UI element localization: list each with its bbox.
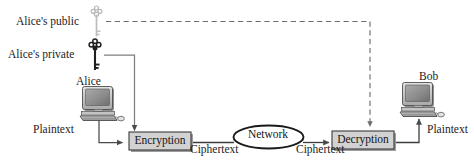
diagram-canvas: Alice's public Alice's private Alice Bob… xyxy=(0,0,474,164)
label-decryption: Decryption xyxy=(331,134,395,146)
edge-public-key-to-decryption xyxy=(106,22,370,127)
label-ciphertext-left: Ciphertext xyxy=(190,144,239,156)
edge-alice-to-encryption xyxy=(99,118,123,143)
label-plaintext-right: Plaintext xyxy=(427,124,468,136)
edge-decryption-to-bob xyxy=(396,119,419,143)
alice-computer-icon xyxy=(80,87,124,121)
label-network: Network xyxy=(232,129,304,141)
label-ciphertext-right: Ciphertext xyxy=(296,144,345,156)
bob-computer-icon xyxy=(400,83,444,117)
label-encryption: Encryption xyxy=(128,135,192,147)
alices-public-key-icon xyxy=(91,6,102,37)
label-alices-private-key: Alice's private xyxy=(8,49,74,61)
label-alices-public-key: Alice's public xyxy=(16,16,79,28)
label-alice: Alice xyxy=(76,76,101,88)
label-plaintext-left: Plaintext xyxy=(33,124,74,136)
alices-private-key-icon xyxy=(89,39,101,70)
label-bob: Bob xyxy=(419,71,438,83)
